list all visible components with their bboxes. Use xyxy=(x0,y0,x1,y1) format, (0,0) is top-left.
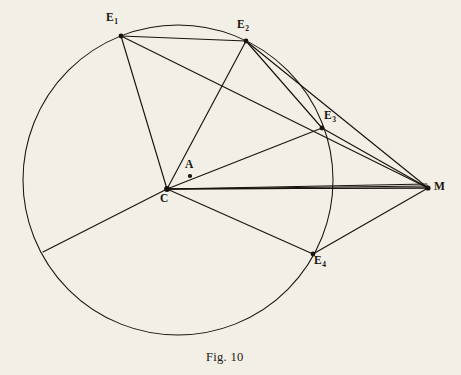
label-e2-text: E xyxy=(237,18,245,30)
circle-group xyxy=(23,25,333,335)
label-e4: E4 xyxy=(314,255,326,267)
segment-e2-m xyxy=(246,41,428,188)
figure-caption: Fig. 10 xyxy=(206,350,244,365)
dot-e1 xyxy=(119,34,124,39)
label-a-text: A xyxy=(185,158,194,170)
label-c: C xyxy=(160,193,169,205)
label-e1-text: E xyxy=(106,11,114,23)
label-a: A xyxy=(185,159,194,171)
label-e3-subscript: 3 xyxy=(332,115,336,124)
label-e4-subscript: 4 xyxy=(322,260,326,269)
label-e4-text: E xyxy=(314,254,322,266)
main-circle xyxy=(23,25,333,335)
dot-e2 xyxy=(244,39,249,44)
figure-10-container: E1 E2 E3 E4 C A M Fig. 10 xyxy=(0,0,461,375)
label-c-text: C xyxy=(160,192,169,204)
segment-c-lower-left-radius xyxy=(43,189,167,252)
geometry-canvas xyxy=(0,0,461,375)
label-e2-subscript: 2 xyxy=(245,24,249,33)
segment-c-e1 xyxy=(121,36,167,189)
dot-m xyxy=(425,185,430,190)
segments-group xyxy=(43,36,428,254)
segment-e3-m xyxy=(322,128,428,188)
label-e2: E2 xyxy=(237,19,249,31)
segment-c-e2 xyxy=(167,41,246,189)
segment-e2-e3 xyxy=(246,41,322,128)
dot-a xyxy=(188,174,192,178)
label-e3: E3 xyxy=(324,110,336,122)
label-m-text: M xyxy=(434,180,445,192)
label-e1: E1 xyxy=(106,12,118,24)
segment-e4-m xyxy=(313,188,428,254)
label-e3-text: E xyxy=(324,109,332,121)
label-m: M xyxy=(434,181,445,193)
segment-e1-e2 xyxy=(121,36,246,41)
vertex-dots-group xyxy=(119,34,431,257)
segment-c-e4 xyxy=(167,189,313,254)
label-e1-subscript: 1 xyxy=(114,17,118,26)
dot-e3 xyxy=(320,126,325,131)
